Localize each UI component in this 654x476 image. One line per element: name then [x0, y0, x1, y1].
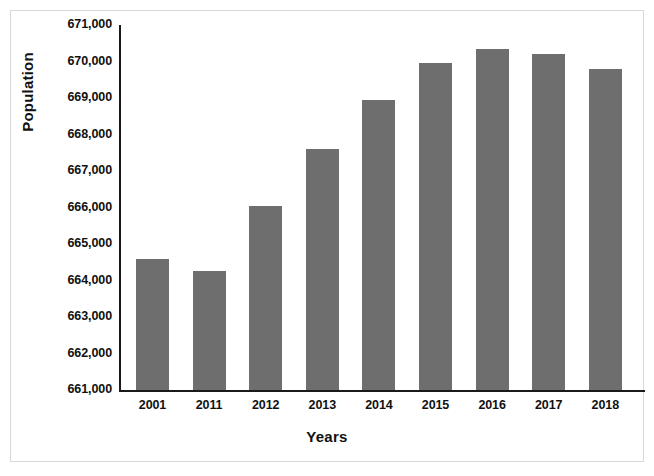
x-tick-label: 2017 — [519, 398, 579, 412]
y-tick-label: 662,000 — [24, 346, 112, 360]
y-tick-label: 671,000 — [24, 17, 112, 31]
bar — [476, 49, 509, 390]
y-tick-label: 665,000 — [24, 236, 112, 250]
y-axis-line — [119, 25, 121, 392]
x-tick-label: 2016 — [462, 398, 522, 412]
bar — [589, 69, 622, 390]
bar — [136, 259, 169, 390]
x-tick-label: 2011 — [179, 398, 239, 412]
bar — [249, 206, 282, 390]
y-tick-label: 666,000 — [24, 200, 112, 214]
x-tick-label: 2018 — [575, 398, 635, 412]
y-tick-label: 663,000 — [24, 309, 112, 323]
x-tick-label: 2015 — [406, 398, 466, 412]
chart-figure: Population 671,000670,000669,000668,0006… — [0, 0, 654, 476]
plot-area — [119, 25, 645, 392]
y-tick-label: 668,000 — [24, 127, 112, 141]
y-tick-label: 661,000 — [24, 382, 112, 396]
bar — [532, 54, 565, 390]
y-tick-label: 670,000 — [24, 54, 112, 68]
y-tick-label: 667,000 — [24, 163, 112, 177]
bar — [362, 100, 395, 390]
x-tick-label: 2001 — [123, 398, 183, 412]
bar — [193, 271, 226, 390]
x-axis-line — [119, 390, 645, 392]
x-tick-label: 2013 — [292, 398, 352, 412]
bar — [306, 149, 339, 390]
x-axis-title: Years — [0, 428, 654, 445]
y-tick-label: 664,000 — [24, 273, 112, 287]
bar — [419, 63, 452, 390]
y-tick-label: 669,000 — [24, 90, 112, 104]
x-tick-label: 2012 — [236, 398, 296, 412]
x-tick-label: 2014 — [349, 398, 409, 412]
